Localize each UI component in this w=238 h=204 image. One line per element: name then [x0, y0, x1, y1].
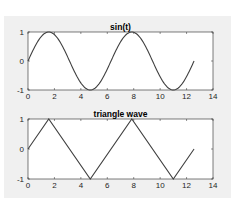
bottom-plot-title: triangle wave — [94, 109, 148, 119]
bottom-axes: triangle wave 02468101214 -101 — [17, 109, 218, 190]
x-tick-label: 8 — [131, 92, 136, 101]
chart-canvas: sin(t) 02468101214 -101 triangle wave 02… — [0, 0, 238, 204]
x-tick-label: 8 — [131, 181, 136, 190]
x-tick-label: 4 — [79, 92, 84, 101]
y-tick-label: 1 — [20, 115, 25, 124]
x-tick-label: 4 — [79, 181, 84, 190]
y-tick-label: -1 — [17, 175, 25, 184]
top-plot-title: sin(t) — [110, 22, 131, 32]
bottom-axes-box — [28, 119, 213, 179]
x-tick-label: 6 — [105, 92, 110, 101]
top-axes-box — [28, 32, 213, 90]
x-tick-label: 2 — [52, 92, 57, 101]
x-tick-label: 12 — [182, 181, 191, 190]
x-tick-label: 12 — [182, 92, 191, 101]
x-tick-label: 0 — [26, 92, 31, 101]
x-tick-label: 2 — [52, 181, 57, 190]
y-tick-label: -1 — [17, 86, 25, 95]
x-tick-label: 14 — [209, 181, 218, 190]
x-tick-label: 10 — [156, 181, 165, 190]
x-tick-label: 14 — [209, 92, 218, 101]
top-axes: sin(t) 02468101214 -101 — [17, 22, 218, 101]
y-tick-label: 0 — [20, 145, 25, 154]
x-tick-label: 0 — [26, 181, 31, 190]
x-tick-label: 6 — [105, 181, 110, 190]
y-tick-label: 1 — [20, 28, 25, 37]
x-tick-label: 10 — [156, 92, 165, 101]
y-tick-label: 0 — [20, 57, 25, 66]
